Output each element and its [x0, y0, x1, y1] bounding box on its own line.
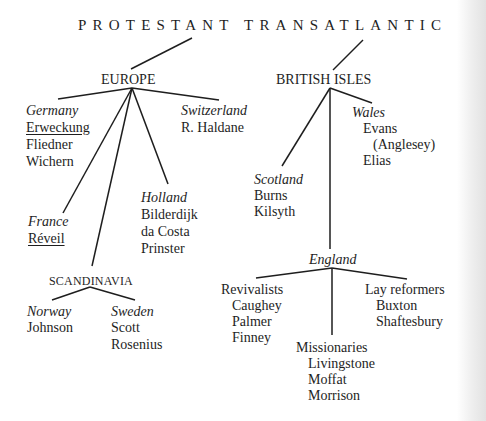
- lay-reformers-item: Buxton: [376, 298, 417, 314]
- revivalists-heading: Revivalists: [221, 282, 283, 298]
- wales-item: (Anglesey): [373, 137, 435, 153]
- lay-reformers-item: Shaftesbury: [376, 314, 443, 330]
- scotland-item: Kilsyth: [254, 204, 295, 220]
- british-isles-label: BRITISH ISLES: [276, 72, 371, 88]
- diagram-title: PROTESTANT TRANSATLANTIC: [78, 18, 447, 34]
- connector-title-europe: [131, 38, 192, 69]
- revivalists-item: Finney: [232, 330, 271, 346]
- connector-europe-germany: [58, 88, 132, 99]
- scotland-heading: Scotland: [254, 172, 303, 188]
- connector-british-wales: [330, 88, 372, 103]
- tree-connectors: [0, 0, 486, 421]
- wales-item: Elias: [363, 153, 391, 169]
- europe-label: EUROPE: [101, 72, 155, 88]
- wales-heading: Wales: [352, 105, 385, 121]
- switzerland-item: R. Haldane: [181, 120, 244, 136]
- germany-item: Fliedner: [26, 137, 73, 153]
- france-item: Réveil: [28, 231, 65, 247]
- sweden-item: Scott: [111, 320, 140, 336]
- connector-england-lay-reformers: [332, 268, 407, 279]
- connector-europe-holland: [132, 88, 168, 184]
- holland-heading: Holland: [141, 190, 187, 206]
- lay-reformers-heading: Lay reformers: [365, 282, 445, 298]
- holland-item: da Costa: [141, 224, 190, 240]
- switzerland-heading: Switzerland: [181, 103, 247, 119]
- connector-europe-switzerland: [132, 88, 219, 100]
- missionaries-item: Morrison: [308, 388, 360, 404]
- missionaries-item: Livingstone: [308, 356, 375, 372]
- revivalists-item: Palmer: [232, 314, 272, 330]
- norway-item: Johnson: [27, 320, 73, 336]
- missionaries-heading: Missionaries: [296, 340, 368, 356]
- revivalists-item: Caughey: [232, 298, 282, 314]
- germany-heading: Germany: [26, 103, 78, 119]
- connector-england-revivalists: [256, 268, 332, 278]
- connector-british-scotland: [282, 88, 330, 166]
- norway-heading: Norway: [27, 304, 71, 320]
- wales-item: Evans: [363, 121, 397, 137]
- sweden-heading: Sweden: [111, 304, 154, 320]
- germany-item: Erweckung: [26, 120, 90, 136]
- missionaries-item: Moffat: [308, 372, 347, 388]
- germany-item: Wichern: [26, 154, 74, 170]
- scandinavia-label: SCANDINAVIA: [49, 274, 133, 290]
- england-heading: England: [309, 252, 356, 268]
- connector-title-british-isles: [333, 40, 363, 70]
- holland-item: Bilderdijk: [141, 207, 198, 223]
- holland-item: Prinster: [141, 241, 185, 257]
- connector-europe-scandinavia: [92, 88, 132, 266]
- france-heading: France: [28, 214, 68, 230]
- scotland-item: Burns: [254, 188, 287, 204]
- sweden-item: Rosenius: [111, 337, 162, 353]
